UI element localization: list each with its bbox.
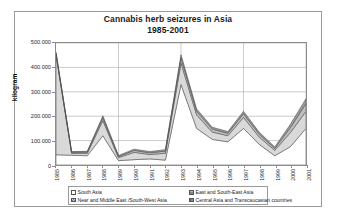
x-axis-tick-label: 1997 [243,169,249,181]
x-axis-tick-label: 1995 [212,169,218,181]
y-axis-tick-label: 0 [0,163,51,169]
stacked-area-svg [56,43,306,165]
y-axis-tick-label: 400.000 [0,64,51,70]
x-axis-tick-mark [244,165,245,168]
x-axis-tick-mark [165,165,166,168]
y-axis-tick-label: 200.000 [0,113,51,119]
x-axis-tick-mark [291,165,292,168]
x-axis-tick-mark [260,165,261,168]
x-axis-tick-mark [276,165,277,168]
y-axis-tick-label: 300.000 [0,89,51,95]
chart-title: Cannabis herb seizures in Asia 1985-2001 [14,14,322,35]
x-axis-tick-label: 1986 [70,169,76,181]
x-axis-tick-label: 2000 [290,169,296,181]
x-axis-tick-mark [87,165,88,168]
x-axis-tick-mark [118,165,119,168]
x-axis-tick-label: 1999 [275,169,281,181]
legend-item[interactable]: South Asia [71,189,189,197]
x-axis-tick-label: 1985 [54,169,60,181]
x-axis-tick-label: 1988 [101,169,107,181]
y-axis-tick-label: 100.000 [0,138,51,144]
plot-area [55,42,307,166]
x-axis-tick-mark [197,165,198,168]
legend-swatch-icon [71,198,76,203]
chart-legend: South AsiaEast and South-East AsiaNear a… [68,186,268,205]
x-axis-tick-mark [213,165,214,168]
plot-wrapper [55,42,307,166]
x-axis-tick-label: 1993 [180,169,186,181]
y-axis-title: kilogram [11,74,18,101]
y-axis-tick-label: 500.000 [0,39,51,45]
x-axis-tick-mark [134,165,135,168]
x-axis-tick-mark [71,165,72,168]
chart-container: Cannabis herb seizures in Asia 1985-2001… [0,0,337,220]
legend-label: Central Asia and Transcaucasian countrie… [196,197,293,203]
x-axis-tick-label: 1992 [164,169,170,181]
x-axis-tick-label: 1990 [133,169,139,181]
legend-swatch-icon [189,198,194,203]
legend-item[interactable]: Central Asia and Transcaucasian countrie… [189,196,292,204]
x-axis-tick-label: 1991 [149,169,155,181]
legend-label: East and South-East Asia [196,189,254,195]
x-axis-tick-label: 1996 [227,169,233,181]
legend-swatch-icon [71,190,76,195]
legend-label: Near and Middle East /South-West Asia [78,197,167,203]
legend-item[interactable]: Near and Middle East /South-West Asia [71,196,189,204]
chart-title-line2: 1985-2001 [14,25,322,36]
x-axis-tick-label: 1987 [86,169,92,181]
chart-title-line1: Cannabis herb seizures in Asia [14,14,322,25]
legend-swatch-icon [189,190,194,195]
legend-item[interactable]: East and South-East Asia [189,189,292,197]
x-axis-tick-mark [181,165,182,168]
x-axis-tick-label: 1989 [117,169,123,181]
x-axis-tick-label: 2001 [306,169,312,181]
x-axis-tick-mark [150,165,151,168]
legend-label: South Asia [78,189,102,195]
area-series-1 [56,84,306,165]
x-axis-tick-mark [55,165,56,168]
x-axis-tick-mark [307,165,308,168]
x-axis-tick-mark [228,165,229,168]
x-axis-tick-label: 1998 [259,169,265,181]
x-axis-tick-label: 1994 [196,169,202,181]
x-axis-tick-mark [102,165,103,168]
